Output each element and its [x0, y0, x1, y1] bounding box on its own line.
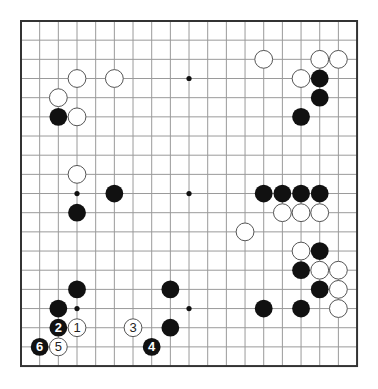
star-point: [74, 306, 79, 311]
numbered-white-stone-5: 5: [49, 338, 67, 356]
black-stone: [311, 242, 329, 260]
black-stone: [292, 300, 310, 318]
black-stone: [311, 185, 329, 203]
numbered-white-stone-1: 1: [68, 319, 86, 337]
white-stone: [255, 50, 273, 68]
black-stone: [311, 280, 329, 298]
white-stone: [105, 70, 123, 88]
black-stone: [49, 300, 67, 318]
white-stone: [329, 300, 347, 318]
white-stone: [329, 280, 347, 298]
black-stone: [255, 185, 273, 203]
numbered-black-stone-4: 4: [143, 338, 161, 356]
star-point: [186, 191, 191, 196]
numbered-white-stone-3: 3: [124, 319, 142, 337]
black-stone: [255, 300, 273, 318]
black-stone: [311, 89, 329, 107]
black-stone: [311, 70, 329, 88]
black-stone: [292, 185, 310, 203]
black-stone: [161, 280, 179, 298]
black-stone: [161, 319, 179, 337]
white-stone: [311, 50, 329, 68]
white-stone: [236, 223, 254, 241]
black-stone: [68, 280, 86, 298]
white-stone: [68, 108, 86, 126]
numbered-black-stone-6: 6: [31, 338, 49, 356]
white-stone: [273, 204, 291, 222]
move-number: 1: [73, 320, 80, 335]
white-stone: [49, 89, 67, 107]
move-number: 3: [129, 320, 136, 335]
move-number: 4: [148, 339, 156, 354]
white-stone: [311, 261, 329, 279]
move-number: 5: [55, 339, 62, 354]
black-stone: [292, 108, 310, 126]
move-number: 6: [36, 339, 43, 354]
black-stone: [68, 204, 86, 222]
black-stone: [273, 185, 291, 203]
white-stone: [329, 261, 347, 279]
numbered-black-stone-2: 2: [49, 319, 67, 337]
white-stone: [68, 70, 86, 88]
go-board: 123456: [0, 0, 378, 389]
white-stone: [292, 204, 310, 222]
white-stone: [329, 50, 347, 68]
black-stone: [105, 185, 123, 203]
move-number: 2: [55, 320, 62, 335]
star-point: [74, 191, 79, 196]
white-stone: [311, 204, 329, 222]
black-stone: [292, 261, 310, 279]
star-point: [186, 76, 191, 81]
star-point: [186, 306, 191, 311]
white-stone: [292, 70, 310, 88]
white-stone: [68, 165, 86, 183]
black-stone: [49, 108, 67, 126]
white-stone: [292, 242, 310, 260]
